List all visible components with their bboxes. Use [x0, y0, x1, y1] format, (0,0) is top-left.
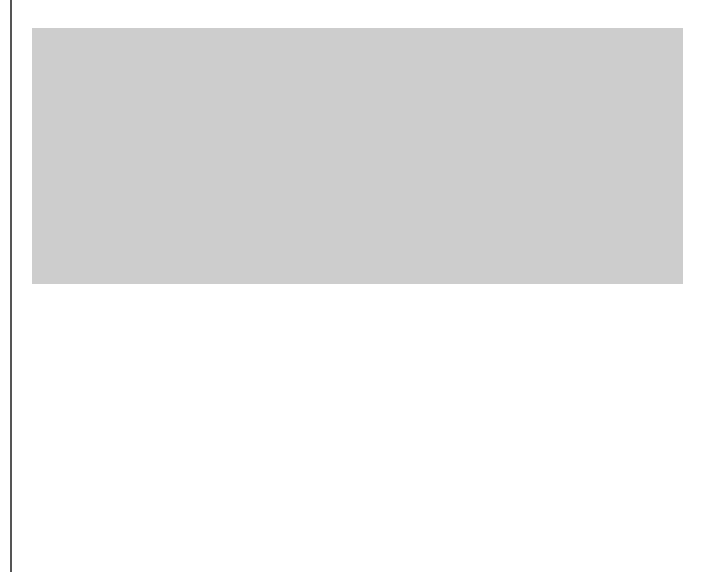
carbon-cycle-diagram — [0, 0, 711, 572]
